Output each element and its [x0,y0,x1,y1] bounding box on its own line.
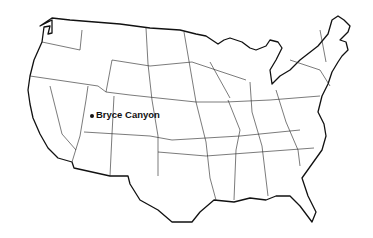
us-outline [28,16,350,222]
location-label-bryce-canyon: Bryce Canyon [96,109,160,120]
location-marker-dot [90,114,94,118]
us-map [0,0,373,238]
